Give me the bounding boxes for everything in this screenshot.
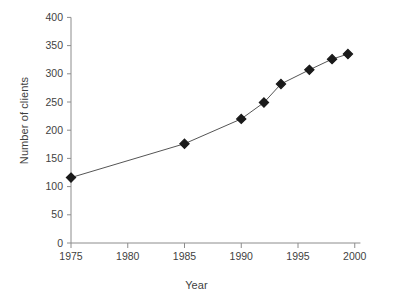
y-axis-tick-label: 0 (57, 237, 63, 249)
y-axis-tick-label: 100 (45, 180, 63, 192)
x-axis-title: Year (0, 279, 393, 291)
data-point-marker (343, 49, 352, 58)
x-axis-tick-label: 1990 (230, 250, 254, 262)
data-point-marker (237, 114, 246, 123)
y-axis-title: Number of clients (18, 33, 30, 208)
data-point-marker (327, 55, 336, 64)
x-axis-tick-label: 2000 (343, 250, 367, 262)
y-axis-tick-label: 150 (45, 152, 63, 164)
y-axis-tick-label: 250 (45, 96, 63, 108)
y-axis-tick-label: 50 (51, 208, 63, 220)
y-axis-tick-label: 400 (45, 11, 63, 23)
x-axis-tick-label: 1980 (116, 250, 140, 262)
data-series-number-of-clients (66, 49, 352, 182)
y-axis-tick-label: 200 (45, 124, 63, 136)
series-line (71, 54, 348, 178)
y-axis-tick-label: 350 (45, 39, 63, 51)
line-chart-plot: 050100150200250300350400 197519801985199… (0, 0, 393, 304)
x-axis-tick-label: 1975 (59, 250, 83, 262)
data-point-marker (66, 173, 75, 182)
x-axis-tick-label: 1995 (286, 250, 310, 262)
y-axis: 050100150200250300350400 (45, 11, 71, 249)
chart-container: 050100150200250300350400 197519801985199… (0, 0, 393, 304)
data-point-marker (305, 65, 314, 74)
y-axis-tick-label: 300 (45, 67, 63, 79)
x-axis-tick-label: 1985 (173, 250, 197, 262)
x-axis: 197519801985199019952000 (59, 243, 366, 262)
data-point-marker (180, 139, 189, 148)
